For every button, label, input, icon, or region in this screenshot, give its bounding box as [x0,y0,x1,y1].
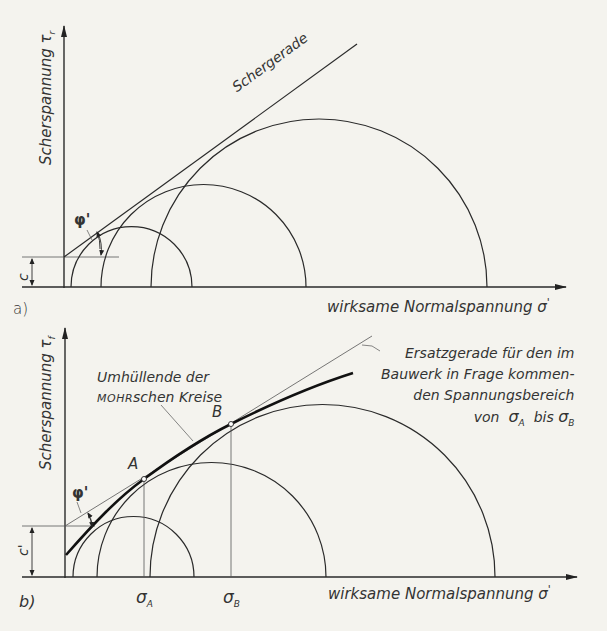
stress-range-label: von σA bis σB [381,406,574,434]
cohesion-label-b: c' [16,544,30,556]
replacement-label-line-2: Bauwerk in Frage kommen- [381,364,574,385]
point-a-label: A [128,457,138,472]
x-axis-label-b: wirksame Normalspannung σ' [328,584,551,602]
friction-angle-label-b: φ' [72,486,88,501]
phi-leader-b [77,502,81,513]
y-axis-label-a: Scherspannung τr [39,31,57,165]
point-b-label: B [212,405,222,420]
shear-line [64,44,357,257]
mohr-circle-large-a [151,119,487,287]
x-axis-label-a: wirksame Normalspannung σ' [327,297,550,315]
envelope-label: Umhüllende der Mohrschen Kreise [97,367,222,409]
mohr-circle-medium-a [101,185,306,288]
panel-label-a: a) [13,302,28,317]
replacement-label-line-1: Ersatzgerade für den im [381,343,574,364]
sigma-b-axis-label: σB [223,589,240,609]
cohesion-label-a: c [16,273,30,281]
y-axis-label-b: Scherspannung τf [39,336,57,470]
panel-label-b: b) [19,594,35,610]
replacement-line-label: Ersatzgerade für den im Bauwerk in Frage… [381,343,574,434]
sigma-a-axis-label: σA [136,589,153,609]
envelope-leader [161,405,193,441]
diagram-a [22,26,566,288]
point-b-marker [229,422,234,427]
mohr-circle-medium-b [97,463,326,578]
replacement-label-line-3: den Spannungsbereich [381,385,574,406]
friction-angle-label-a: φ' [74,213,90,228]
point-a-marker [142,477,147,482]
replacement-leader [362,345,380,351]
